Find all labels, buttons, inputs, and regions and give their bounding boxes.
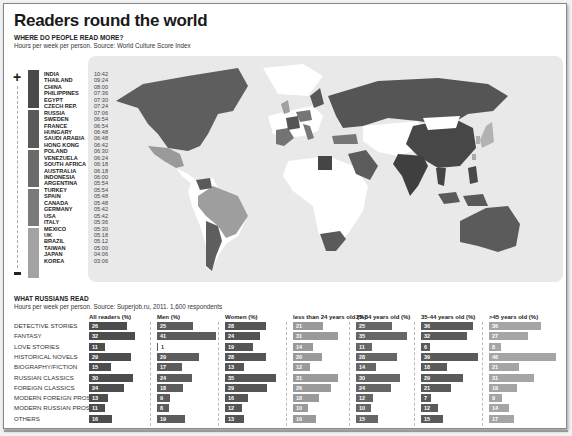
category-label: OTHERS: [14, 415, 40, 422]
data-bar: 26: [89, 322, 127, 330]
north-america-region: [116, 68, 248, 151]
data-bar: 19: [489, 384, 517, 392]
korea-region: [476, 136, 480, 144]
data-bar: 25: [157, 322, 193, 330]
data-bar: 29: [225, 384, 267, 392]
map-section-subtitle: Hours per week per person. Source: World…: [14, 42, 191, 49]
data-bar: 24: [225, 332, 260, 340]
india-region: [393, 154, 428, 196]
data-bar: 12: [225, 404, 242, 412]
data-bar: 12: [421, 404, 438, 412]
data-bar: 29: [157, 353, 199, 361]
column-divider: [286, 322, 287, 426]
legend-scale-line: [17, 86, 18, 268]
column-header: Women (%): [225, 314, 258, 320]
data-bar: 11: [356, 343, 372, 351]
data-bar: 13: [225, 363, 244, 371]
data-bar: 21: [293, 322, 323, 330]
column-divider: [349, 322, 350, 426]
data-bar: 30: [89, 374, 133, 382]
data-bar: 25: [356, 322, 392, 330]
data-bar: 12: [356, 394, 373, 402]
category-label: HISTORICAL NOVELS: [14, 353, 78, 360]
data-bar: 39: [421, 353, 478, 361]
reading-time: 03:06: [94, 258, 108, 264]
data-bar: 10: [356, 404, 371, 412]
legend-swatch-2: [28, 110, 39, 148]
data-bar: 35: [356, 332, 407, 340]
country-name: KOREA: [44, 258, 94, 264]
data-bar: 28: [225, 353, 266, 361]
less-reading-indicator: [14, 272, 21, 275]
data-bar: 26: [293, 384, 331, 392]
data-bar: 11: [89, 343, 105, 351]
data-bar: 46: [489, 353, 556, 361]
category-label: FANTASY: [14, 332, 42, 339]
infographic-frame: Readers round the world WHERE DO PEOPLE …: [3, 3, 567, 429]
category-label: DETECTIVE STORIES: [14, 322, 78, 329]
category-label: RUSSIAN CLASSICS: [14, 374, 74, 381]
data-bar: 17: [157, 363, 182, 371]
data-bar: 32: [89, 332, 135, 340]
data-bar: 9: [489, 394, 502, 402]
russia-region: [328, 78, 508, 128]
data-bar: 41: [157, 332, 216, 340]
russia-section-subtitle: Hours per week per person. Source: Super…: [14, 303, 222, 310]
data-bar: 7: [421, 394, 431, 402]
world-map-svg: [88, 56, 563, 282]
map-section-title: WHERE DO PEOPLE READ MORE?: [14, 34, 123, 41]
data-bar: 9: [157, 394, 170, 402]
south-africa-region: [320, 231, 346, 251]
data-bar: 16: [293, 415, 316, 423]
data-bar: 30: [356, 374, 400, 382]
data-bar: 19: [225, 343, 253, 351]
data-bar: 28: [356, 353, 397, 361]
legend-swatch-4: [28, 189, 39, 226]
indonesia-region: [438, 192, 488, 206]
data-bar: 21: [421, 384, 451, 392]
data-bar: 16: [225, 394, 248, 402]
data-bar: 28: [225, 322, 266, 330]
legend-swatch-5: [28, 228, 39, 278]
legend-swatch-3: [28, 150, 39, 187]
data-bar: 13: [225, 415, 244, 423]
data-bar: 36: [421, 322, 473, 330]
data-bar: 12: [293, 363, 310, 371]
column-header: >45 years old (%): [489, 314, 538, 320]
column-header: All readers (%): [89, 314, 131, 320]
data-bar: 21: [489, 363, 519, 371]
sweden-region: [310, 88, 324, 108]
page-title: Readers round the world: [14, 11, 207, 31]
data-bar: 14: [489, 404, 509, 412]
data-bar: 29: [89, 353, 131, 361]
column-divider: [150, 322, 151, 426]
data-bar: 10: [293, 404, 308, 412]
data-bar: 15: [89, 363, 111, 371]
data-bar: 17: [489, 415, 514, 423]
data-bar: 18: [157, 384, 183, 392]
category-label: FOREIGN CLASSICS: [14, 384, 75, 391]
data-bar: 18: [421, 363, 447, 371]
column-divider: [218, 322, 219, 426]
data-bar: 11: [89, 404, 105, 412]
data-bar: 19: [157, 415, 185, 423]
data-bar: 8: [489, 343, 501, 351]
philippines-region: [468, 166, 478, 184]
data-bar: 14: [293, 343, 313, 351]
category-label: MODERN FOREIGN PROSE: [14, 394, 95, 401]
data-bar: 24: [89, 384, 124, 392]
legend-row: KOREA03:06: [44, 258, 120, 264]
bottom-rule: [4, 430, 568, 432]
data-bar: 15: [356, 415, 378, 423]
column-header: Men (%): [157, 314, 180, 320]
column-divider: [414, 322, 415, 426]
thailand-region: [436, 168, 446, 186]
world-map: [88, 56, 563, 282]
data-bar: 8: [157, 404, 169, 412]
data-bar: 13: [89, 394, 108, 402]
data-bar: 31: [293, 374, 338, 382]
data-bar: 27: [489, 332, 528, 340]
data-bar: 6: [421, 343, 430, 351]
category-label: MODERN RUSSIAN PROSE: [14, 404, 94, 411]
data-bar: 31: [293, 332, 338, 340]
